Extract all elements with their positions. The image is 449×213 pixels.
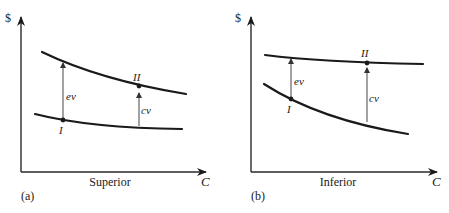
- point-i-label-a: I: [58, 124, 64, 136]
- ev-label-b: ev: [294, 75, 304, 87]
- point-ii-label-a: II: [132, 71, 142, 83]
- point-ii-label-b: II: [360, 47, 370, 59]
- welfare-measures-figure: $ ev cv II I Superior C (a) $ ev cv II I…: [0, 0, 449, 213]
- point-i-a: [61, 118, 66, 123]
- point-ii-b: [365, 61, 370, 66]
- x-caption-b: Inferior: [320, 175, 357, 189]
- lower-curve-b: [264, 84, 408, 134]
- panel-tag-a: (a): [21, 189, 34, 203]
- ev-label-a: ev: [66, 90, 76, 102]
- point-i-b: [289, 97, 294, 102]
- point-ii-a: [137, 84, 142, 89]
- panel-b: $ ev cv II I Inferior C (b): [235, 11, 441, 203]
- upper-curve-b: [265, 55, 423, 64]
- y-axis-label-a: $: [5, 11, 11, 25]
- upper-curve-a: [42, 52, 186, 94]
- x-caption-a: Superior: [89, 175, 130, 189]
- x-axis-label-a: C: [201, 174, 210, 189]
- panel-a: $ ev cv II I Superior C (a): [5, 11, 210, 203]
- cv-label-a: cv: [141, 104, 151, 116]
- point-i-label-b: I: [286, 103, 292, 115]
- y-axis-label-b: $: [235, 11, 241, 25]
- panel-tag-b: (b): [251, 189, 265, 203]
- x-axis-label-b: C: [432, 174, 441, 189]
- cv-label-b: cv: [369, 92, 379, 104]
- lower-curve-a: [35, 114, 182, 129]
